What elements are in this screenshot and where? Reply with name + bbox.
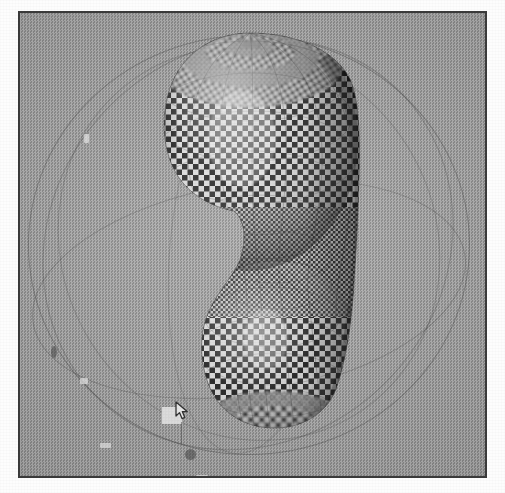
gizmo-stem (181, 422, 182, 444)
scan-halftone-overlay (18, 11, 487, 478)
figure-caption: Checkerboard-mapped surface of revolutio… (0, 0, 1, 1)
arrow-cursor (175, 401, 191, 421)
perspective-viewport[interactable] (18, 11, 487, 478)
screenshot-page: Checkerboard-mapped surface of revolutio… (0, 0, 505, 493)
